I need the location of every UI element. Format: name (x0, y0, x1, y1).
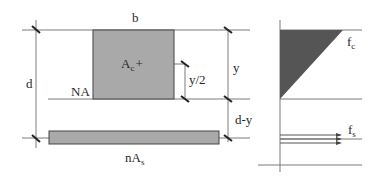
transformed-steel-area (49, 131, 219, 144)
arrowhead-3 (336, 141, 342, 145)
label-half-y: y/2 (189, 72, 206, 87)
label-d: d (26, 76, 33, 91)
diagram-svg: b d NA Ac+ y/2 y d-y nAs fc fs (0, 0, 381, 179)
arrowhead-2 (336, 137, 342, 141)
label-b: b (132, 10, 139, 25)
arrowhead-1 (336, 133, 342, 137)
transformed-section-diagram: b d NA Ac+ y/2 y d-y nAs fc fs (0, 0, 381, 179)
label-nas: nAs (125, 150, 145, 167)
label-fc: fc (347, 34, 355, 51)
label-fs: fs (348, 122, 356, 139)
concrete-stress-triangle (280, 30, 343, 99)
label-y: y (233, 60, 240, 75)
label-d-minus-y: d-y (235, 112, 253, 127)
label-na: NA (71, 84, 90, 99)
